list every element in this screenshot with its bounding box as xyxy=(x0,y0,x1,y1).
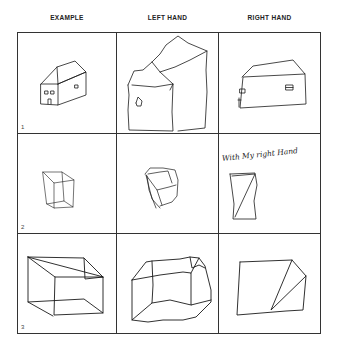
example-house-drawing xyxy=(41,61,86,105)
left-hand-house-drawing xyxy=(128,36,207,131)
left-hand-small-cube-drawing xyxy=(145,168,178,208)
right-hand-house-drawing xyxy=(238,60,306,108)
example-large-cube-drawing xyxy=(28,257,103,316)
right-hand-small-cube-drawing xyxy=(230,173,257,219)
drawings-layer xyxy=(0,0,337,350)
right-hand-large-cube-drawing xyxy=(237,260,306,315)
example-small-cube-drawing xyxy=(43,172,74,208)
left-hand-large-cube-drawing xyxy=(132,257,211,322)
